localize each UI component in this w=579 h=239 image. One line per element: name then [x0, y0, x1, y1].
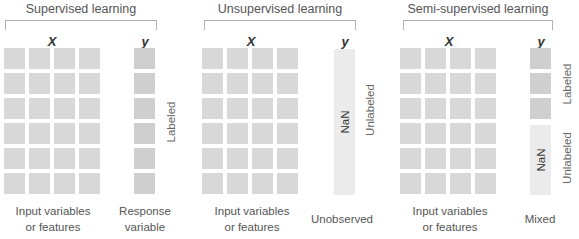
nan-value: NaN	[339, 110, 351, 133]
data-cell	[4, 123, 25, 144]
data-cell	[79, 148, 100, 169]
data-cell	[29, 173, 50, 194]
caption-line: or features	[215, 219, 290, 235]
data-cell	[277, 123, 298, 144]
caption-line: variable	[119, 219, 171, 235]
data-cell	[530, 73, 551, 94]
data-cell	[79, 173, 100, 194]
panel-title: Supervised learning	[5, 2, 157, 16]
side-label-unlabeled: Unlabeled	[561, 132, 573, 184]
data-cell	[29, 73, 50, 94]
data-cell	[202, 48, 223, 69]
data-cell	[252, 73, 273, 94]
y-label: y	[135, 34, 155, 49]
data-cell	[4, 48, 25, 69]
bracket	[204, 20, 356, 30]
data-cell	[425, 123, 446, 144]
data-cell	[134, 123, 155, 144]
x-label: X	[241, 34, 261, 49]
data-cell	[475, 173, 496, 194]
data-cell	[29, 98, 50, 119]
data-cell	[29, 123, 50, 144]
data-cell	[29, 148, 50, 169]
y-label: y	[531, 34, 551, 49]
data-cell	[202, 123, 223, 144]
data-cell	[425, 48, 446, 69]
data-cell	[227, 148, 248, 169]
data-cell	[252, 98, 273, 119]
x-label: X	[42, 34, 62, 49]
data-cell	[400, 148, 421, 169]
data-cell	[54, 73, 75, 94]
data-cell	[425, 98, 446, 119]
data-cell	[79, 73, 100, 94]
data-cell	[450, 148, 471, 169]
data-cell	[425, 148, 446, 169]
data-cell	[450, 173, 471, 194]
side-label-unlabeled: Unlabeled	[364, 84, 376, 136]
data-cell	[450, 48, 471, 69]
data-cell	[202, 173, 223, 194]
data-cell	[252, 48, 273, 69]
data-cell	[277, 48, 298, 69]
data-cell	[79, 98, 100, 119]
caption-line: or features	[413, 219, 488, 235]
data-cell	[252, 148, 273, 169]
data-cell	[277, 98, 298, 119]
data-cell	[252, 123, 273, 144]
data-cell	[475, 123, 496, 144]
data-cell	[400, 48, 421, 69]
data-cell	[227, 173, 248, 194]
side-label-labeled: Labeled	[165, 102, 177, 143]
data-cell	[277, 73, 298, 94]
data-cell	[202, 73, 223, 94]
nan-column: NaN	[530, 125, 551, 195]
data-cell	[400, 98, 421, 119]
data-cell	[134, 73, 155, 94]
data-cell	[227, 98, 248, 119]
y-label: y	[335, 34, 355, 49]
x-caption: Input variables or features	[16, 203, 91, 235]
data-cell	[79, 123, 100, 144]
x-label: X	[439, 34, 459, 49]
data-cell	[54, 123, 75, 144]
data-cell	[450, 98, 471, 119]
data-cell	[252, 173, 273, 194]
caption-line: Unobserved	[311, 211, 373, 227]
data-cell	[134, 98, 155, 119]
panel-title: Semi-supervised learning	[403, 2, 553, 16]
data-cell	[450, 123, 471, 144]
data-cell	[4, 173, 25, 194]
data-cell	[134, 173, 155, 194]
data-cell	[400, 73, 421, 94]
data-cell	[475, 48, 496, 69]
nan-value: NaN	[535, 148, 547, 171]
data-cell	[475, 73, 496, 94]
data-cell	[54, 48, 75, 69]
data-cell	[79, 48, 100, 69]
data-cell	[227, 48, 248, 69]
data-cell	[475, 98, 496, 119]
data-cell	[450, 73, 471, 94]
data-cell	[475, 148, 496, 169]
data-cell	[227, 123, 248, 144]
data-cell	[530, 48, 551, 69]
y-caption: Unobserved	[311, 211, 373, 227]
data-cell	[400, 173, 421, 194]
caption-line: Input variables	[413, 203, 488, 219]
data-cell	[202, 98, 223, 119]
nan-column: NaN	[334, 49, 355, 195]
data-cell	[134, 48, 155, 69]
panel-title: Unsupervised learning	[204, 2, 356, 16]
data-cell	[227, 73, 248, 94]
bracket	[5, 20, 157, 30]
x-caption: Input variables or features	[413, 203, 488, 235]
data-cell	[400, 123, 421, 144]
bracket	[403, 20, 553, 30]
caption-line: Response	[119, 203, 171, 219]
data-cell	[4, 98, 25, 119]
data-cell	[54, 98, 75, 119]
data-cell	[29, 48, 50, 69]
data-cell	[54, 148, 75, 169]
data-cell	[277, 173, 298, 194]
